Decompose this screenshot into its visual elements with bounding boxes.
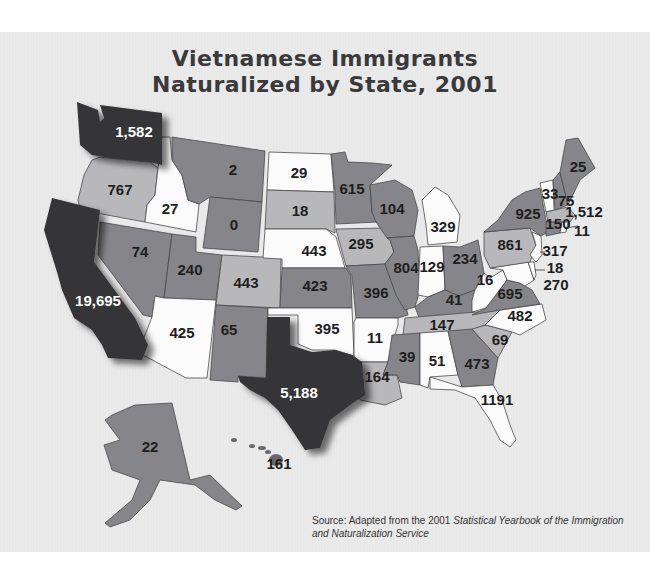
label-alabama: 51	[429, 352, 446, 369]
us-map: 1,582 767 19,695 27 74 2 0 240 425 443 6…	[0, 0, 650, 570]
label-arkansas: 11	[367, 329, 383, 346]
label-new-jersey: 317	[542, 242, 567, 259]
label-oklahoma: 395	[314, 320, 339, 337]
label-connecticut: 150	[545, 215, 570, 232]
label-nebraska: 443	[301, 242, 326, 259]
label-maryland: 270	[543, 276, 568, 293]
label-mississippi: 39	[399, 348, 416, 365]
label-maine: 25	[570, 158, 587, 175]
label-north-carolina: 482	[507, 307, 532, 324]
state-alaska	[104, 403, 242, 527]
label-nevada: 74	[132, 243, 149, 260]
label-new-mexico: 65	[221, 321, 238, 338]
label-arizona: 425	[169, 324, 194, 341]
label-illinois: 804	[393, 259, 419, 276]
label-west-virginia: 16	[477, 271, 494, 288]
state-florida	[430, 377, 516, 447]
label-massachusetts: 1,512	[565, 203, 603, 220]
label-montana: 2	[229, 161, 237, 178]
source-note: Source: Adapted from the 2001 Statistica…	[312, 514, 642, 540]
label-north-dakota: 29	[291, 164, 308, 181]
label-washington: 1,582	[115, 123, 153, 140]
label-rhode-island: 11	[574, 222, 590, 239]
label-florida: 1191	[481, 391, 514, 408]
label-south-dakota: 18	[292, 202, 309, 219]
label-new-york: 925	[515, 205, 540, 222]
label-virginia: 695	[497, 285, 522, 302]
label-pennsylvania: 861	[497, 236, 522, 253]
label-ohio: 234	[452, 250, 478, 267]
label-michigan: 329	[430, 218, 455, 235]
label-vermont: 33	[542, 185, 559, 202]
label-wisconsin: 104	[379, 200, 405, 217]
label-idaho: 27	[162, 200, 179, 217]
label-tennessee: 147	[429, 316, 454, 333]
label-kentucky: 41	[446, 291, 463, 308]
label-minnesota: 615	[339, 180, 364, 197]
label-texas: 5,188	[280, 384, 318, 401]
label-colorado: 443	[233, 274, 258, 291]
label-south-carolina: 69	[492, 331, 509, 348]
label-louisiana: 164	[364, 368, 390, 385]
label-missouri: 396	[363, 284, 388, 301]
label-georgia: 473	[464, 355, 489, 372]
label-california: 19,695	[75, 292, 121, 309]
label-alaska: 22	[142, 438, 159, 455]
label-kansas: 423	[302, 277, 327, 294]
state-new-mexico	[210, 305, 268, 382]
label-iowa: 295	[348, 235, 373, 252]
source-prefix: Source: Adapted from the 2001	[312, 515, 453, 526]
label-utah: 240	[177, 261, 202, 278]
label-delaware: 18	[547, 259, 564, 276]
state-michigan	[422, 187, 460, 245]
label-hawaii: 161	[266, 455, 291, 472]
label-indiana: 129	[419, 258, 444, 275]
label-oregon: 767	[107, 181, 132, 198]
label-wyoming: 0	[230, 216, 238, 233]
